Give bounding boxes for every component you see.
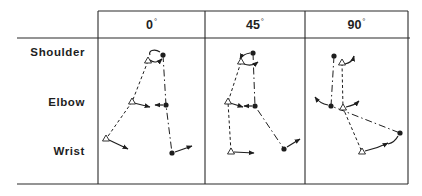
column-header-45-degrees: 45° (205, 17, 305, 32)
moved-limb-line (331, 56, 400, 133)
column-header-angle: 90 (347, 18, 361, 32)
wrist-rotation-arrow-moved (287, 139, 300, 147)
wrist-reference-triangle-icon (228, 148, 235, 154)
wrist-rotation-arrow-moved (388, 136, 398, 144)
column-header-angle: 0 (146, 18, 153, 32)
elbow-reference-triangle-icon (340, 104, 347, 110)
column-header-angle: 45 (246, 18, 260, 32)
elbow-rotation-arrow (346, 101, 359, 107)
shoulder-reference-triangle-icon (339, 59, 346, 65)
row-label-elbow: Elbow (5, 96, 85, 108)
degree-symbol: ° (154, 17, 157, 26)
row-label-wrist: Wrist (5, 145, 85, 157)
wrist-rotation-arrow (234, 152, 254, 153)
wrist-rotation-arrow (109, 140, 128, 149)
wrist-moved-dot-icon (281, 146, 286, 151)
panel-0-degrees (103, 50, 193, 155)
wrist-reference-triangle-icon (359, 148, 366, 154)
shoulder-moved-dot-icon (250, 50, 255, 55)
elbow-moved-dot-icon (163, 102, 168, 107)
wrist-rotation-arrow-moved (175, 146, 192, 152)
degree-symbol: ° (362, 17, 365, 26)
reference-limb-line (228, 62, 241, 152)
column-header-90-degrees: 90° (305, 17, 408, 32)
row-label-shoulder: Shoulder (5, 46, 85, 58)
wrist-rotation-arrow (365, 143, 388, 151)
shoulder-moved-dot-icon (160, 52, 165, 57)
elbow-reference-triangle-icon (225, 98, 232, 104)
elbow-rotation-arrow (134, 103, 150, 107)
reference-limb-line (106, 61, 148, 139)
wrist-moved-dot-icon (397, 130, 402, 135)
moved-limb-line (253, 53, 284, 149)
shoulder-rotation-arrow (345, 56, 354, 64)
shoulder-rotation-arrow (150, 50, 162, 62)
column-header-0-degrees: 0° (98, 17, 205, 32)
panel-90-degrees (315, 53, 403, 154)
elbow-reference-triangle-icon (129, 98, 136, 104)
wrist-moved-dot-icon (169, 150, 174, 155)
elbow-rotation-arrow-moved (315, 97, 328, 105)
shoulder-reference-triangle-icon (238, 58, 245, 64)
shoulder-rotation-arrow-moved (244, 62, 258, 65)
shoulder-moved-dot-icon (331, 53, 336, 58)
elbow-moved-dot-icon (328, 103, 333, 108)
degree-symbol: ° (261, 17, 264, 26)
elbow-rotation-arrow (230, 103, 243, 107)
panel-45-degrees (225, 50, 301, 154)
elbow-moved-dot-icon (252, 103, 257, 108)
